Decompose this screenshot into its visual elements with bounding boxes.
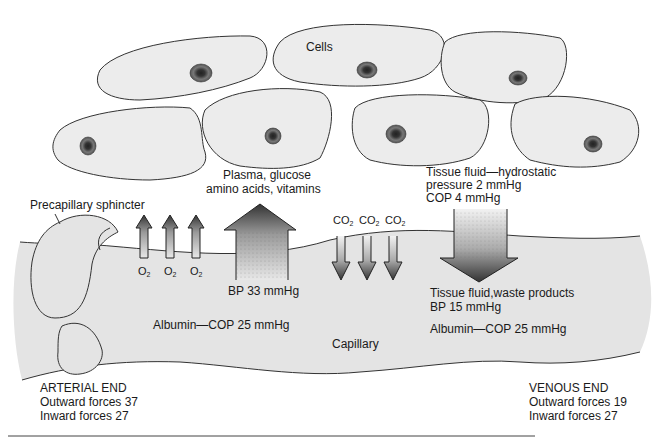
tissue-fluid-label-line1: Tissue fluid—hydrostatic xyxy=(426,165,556,179)
venous-inward-forces: Inward forces 27 xyxy=(529,409,618,423)
arterial-end-title: ARTERIAL END xyxy=(40,381,127,395)
waste-label: Tissue fluid,waste products xyxy=(430,286,574,300)
capillary-vessel xyxy=(13,230,651,380)
sphincter-pointer xyxy=(55,214,60,224)
cells-label: Cells xyxy=(306,40,333,54)
venous-bp-label: BP 15 mmHg xyxy=(430,300,501,314)
capillary-label: Capillary xyxy=(332,337,379,351)
venous-albumin-label: Albumin—COP 25 mmHg xyxy=(430,322,567,336)
tissue-fluid-label-line2: pressure 2 mmHg xyxy=(426,178,521,192)
nutrients-label-line2: amino acids, vitamins xyxy=(206,182,321,196)
nutrients-label-line1: Plasma, glucose xyxy=(223,168,311,182)
o2-label-3: O2 xyxy=(190,264,202,282)
co2-arrows xyxy=(332,236,402,280)
cells xyxy=(53,24,639,180)
tissue-fluid-label-line3: COP 4 mmHg xyxy=(426,191,500,205)
o2-arrows xyxy=(136,215,204,258)
arterial-bp-label: BP 33 mmHg xyxy=(228,284,299,298)
venous-end-title: VENOUS END xyxy=(529,381,608,395)
co2-label-2: CO2 xyxy=(359,213,379,231)
arterial-outward-forces: Outward forces 37 xyxy=(40,395,138,409)
precapillary-sphincter-label: Precapillary sphincter xyxy=(30,198,145,212)
venous-outward-forces: Outward forces 19 xyxy=(529,395,627,409)
o2-label-2: O2 xyxy=(164,264,176,282)
co2-label-1: CO2 xyxy=(333,213,353,231)
arterial-albumin-label: Albumin—COP 25 mmHg xyxy=(153,318,290,332)
capillary-exchange-diagram xyxy=(0,0,661,446)
o2-label-1: O2 xyxy=(138,264,150,282)
co2-label-3: CO2 xyxy=(385,213,405,231)
arterial-inward-forces: Inward forces 27 xyxy=(40,409,129,423)
